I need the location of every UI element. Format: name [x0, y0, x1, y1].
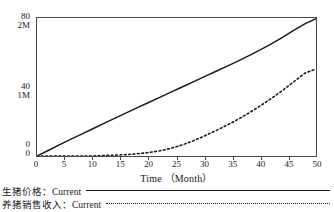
x-tick-label: 35 [228, 159, 237, 169]
x-tick-label: 30 [200, 159, 209, 169]
series-line-pig-revenue [37, 69, 316, 156]
legend-item-pig-price: 生猪价格：Current [2, 184, 332, 197]
y-tick-label-0: 0 0 [26, 140, 31, 158]
plot-lines [37, 18, 316, 156]
legend-line-solid [86, 190, 330, 191]
x-tick-label: 50 [313, 159, 322, 169]
y-tick-secondary-0: 0 [26, 149, 31, 158]
chart-container: 80 2M 40 1M 0 0 05101520253035404550 Tim… [0, 0, 334, 212]
x-tick-label: 25 [172, 159, 181, 169]
x-tick-label: 10 [88, 159, 97, 169]
y-tick-label-80: 80 2M [17, 12, 30, 30]
plot-area [36, 17, 317, 157]
x-tick-label: 5 [62, 159, 67, 169]
y-tick-label-40: 40 1M [17, 82, 30, 100]
x-tick-label: 40 [256, 159, 265, 169]
series-line-pig-price [37, 19, 316, 156]
y-tick-secondary-2M: 2M [17, 21, 30, 30]
y-tick-secondary-1M: 1M [17, 91, 30, 100]
legend-line-dotted [106, 203, 330, 204]
x-tick-label: 45 [284, 159, 293, 169]
legend-item-pig-revenue: 养猪销售收入：Current [2, 197, 332, 210]
x-tick-label: 0 [34, 159, 39, 169]
y-axis-labels: 80 2M 40 1M 0 0 [0, 0, 34, 212]
chart-legend: 生猪价格：Current 养猪销售收入：Current [2, 184, 332, 210]
legend-label-pig-revenue: 养猪销售收入：Current [2, 197, 101, 211]
legend-label-pig-price: 生猪价格：Current [2, 184, 81, 198]
x-tick-label: 20 [144, 159, 153, 169]
x-tick-label: 15 [116, 159, 125, 169]
